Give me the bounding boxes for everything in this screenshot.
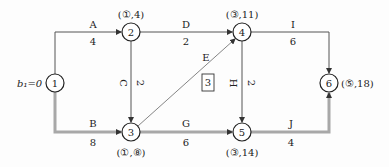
- activity-B-name: B: [89, 118, 96, 129]
- activity-A-name: A: [88, 19, 97, 30]
- activity-J-duration: 4: [288, 137, 294, 148]
- node-6-annotation: (⑤,18): [341, 78, 374, 89]
- node-4-annotation: (③,11): [226, 9, 259, 20]
- activity-E-arrow: [138, 39, 235, 126]
- activity-C-name: C: [118, 79, 129, 87]
- node-5-number: 5: [239, 127, 245, 138]
- node-1-number: 1: [52, 78, 58, 89]
- activity-J-name: J: [288, 118, 293, 129]
- activity-G-duration: 6: [183, 137, 189, 148]
- activity-D-duration: 2: [183, 36, 189, 47]
- activity-B-duration: 8: [90, 137, 96, 148]
- node-6-number: 6: [326, 78, 332, 89]
- start-time-label: b₁=0: [17, 78, 43, 89]
- node-5-annotation: (③,14): [226, 147, 259, 158]
- activity-H-duration: 2: [246, 80, 257, 86]
- activity-I-name: I: [291, 19, 295, 30]
- node-4-number: 4: [239, 27, 245, 38]
- node-3: 3: [122, 123, 140, 141]
- activity-H-name: H: [228, 79, 239, 88]
- network-diagram: 1 2 3 4 5 6 b₁=0 (①,4) (①,⑧) (③,11) (③,1…: [0, 0, 389, 167]
- activity-A-duration: 4: [90, 36, 96, 47]
- activity-A-arrow: [55, 32, 121, 74]
- activity-B-arrow: [55, 92, 121, 132]
- node-1: 1: [46, 74, 64, 92]
- activity-E-duration: 3: [205, 77, 211, 88]
- node-5: 5: [233, 123, 251, 141]
- activity-G-name: G: [182, 118, 190, 129]
- activity-C-duration: 2: [135, 80, 146, 86]
- activity-D-name: D: [182, 19, 190, 30]
- activity-I-duration: 6: [290, 36, 296, 47]
- node-2-number: 2: [128, 27, 134, 38]
- activity-E-name: E: [202, 52, 209, 63]
- node-2-annotation: (①,4): [118, 9, 144, 20]
- node-3-number: 3: [128, 127, 134, 138]
- node-3-annotation: (①,⑧): [117, 147, 146, 158]
- node-2: 2: [122, 23, 140, 41]
- node-4: 4: [233, 23, 251, 41]
- node-6: 6: [320, 74, 338, 92]
